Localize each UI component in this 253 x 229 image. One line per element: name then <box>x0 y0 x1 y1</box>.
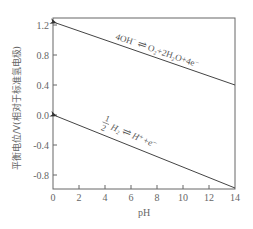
x-tick-label: 4 <box>103 192 108 203</box>
x-tick-label: 8 <box>155 192 160 203</box>
x-axis-title: pH <box>138 207 150 218</box>
y-tick-label: -0.8 <box>33 170 49 181</box>
y-tick-label: 0.8 <box>37 50 50 61</box>
annotation-oxygen: 4OH−⇌O₂+2H₂O+4e⁻ <box>114 30 201 70</box>
y-axis <box>53 25 57 175</box>
svg-text:2: 2 <box>100 122 108 133</box>
x-tick-label: 14 <box>230 192 240 203</box>
x-axis <box>79 185 209 189</box>
y-tick-label: 1.2 <box>37 20 50 31</box>
y-tick-label: -0.4 <box>33 140 49 151</box>
chart-canvas: 1.2 0.8 0.4 0.0 -0.4 -0.8 0 2 4 6 8 10 1… <box>0 0 253 229</box>
annotation-hydrogen: 1 2 H₂⇌H⁺+e⁻ <box>99 113 161 154</box>
series-line-hydrogen <box>56 116 235 188</box>
y-axis-title: 平衡电位/V(相对于标准氢电极) <box>11 46 22 170</box>
x-tick-label: 12 <box>204 192 214 203</box>
x-tick-label: 6 <box>129 192 134 203</box>
x-tick-label: 10 <box>178 192 188 203</box>
svg-text:4OH−⇌O₂+2H₂O+4e⁻: 4OH−⇌O₂+2H₂O+4e⁻ <box>114 30 201 70</box>
x-tick-label: 2 <box>77 192 82 203</box>
x-tick-label: 0 <box>51 192 56 203</box>
series-line-oxygen <box>56 23 235 85</box>
y-tick-label: 0.4 <box>37 80 50 91</box>
svg-text:H₂⇌H⁺+e⁻: H₂⇌H⁺+e⁻ <box>109 120 160 150</box>
y-tick-label: 0.0 <box>37 110 50 121</box>
